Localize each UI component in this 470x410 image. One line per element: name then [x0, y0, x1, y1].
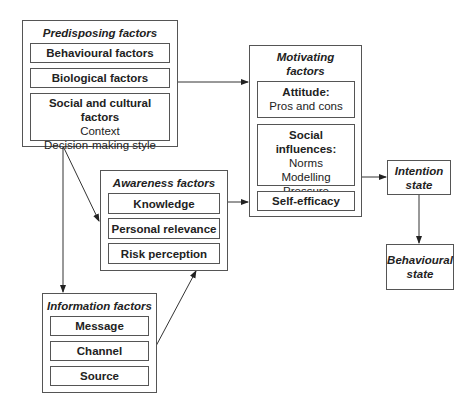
intention-line2: state	[388, 178, 450, 192]
attitude-label: Attitude:	[258, 85, 354, 99]
social-cultural-factors-box: Social and cultural factors Context Deci…	[30, 93, 170, 141]
predisposing-factors-box: Predisposing factors Behavioural factors…	[22, 20, 178, 147]
motivating-title-line2: factors	[250, 64, 361, 78]
behavioural-line1: Behavioural	[387, 253, 453, 267]
source-box: Source	[50, 366, 149, 386]
personal-relevance-label: Personal relevance	[112, 223, 217, 235]
attitude-box: Attitude: Pros and cons	[257, 81, 355, 118]
awareness-factors-box: Awareness factors Knowledge Personal rel…	[100, 170, 228, 271]
knowledge-label: Knowledge	[133, 198, 194, 210]
risk-perception-box: Risk perception	[108, 243, 220, 264]
message-box: Message	[50, 316, 149, 336]
knowledge-box: Knowledge	[108, 193, 220, 214]
pros-and-cons-label: Pros and cons	[258, 99, 354, 113]
arrow-information-to-awareness	[156, 271, 196, 346]
intention-line1: Intention	[388, 164, 450, 178]
personal-relevance-box: Personal relevance	[108, 218, 220, 239]
behavioural-factors-label: Behavioural factors	[46, 47, 153, 59]
social-influences-label: Social influences:	[258, 128, 354, 156]
motivating-title: Motivating factors	[250, 50, 361, 78]
information-title: Information factors	[43, 299, 156, 313]
behavioural-line2: state	[387, 267, 453, 281]
channel-label: Channel	[77, 345, 122, 357]
self-efficacy-label: Self-efficacy	[272, 195, 340, 207]
awareness-title: Awareness factors	[101, 176, 227, 190]
context-label: Context	[31, 124, 169, 138]
biological-factors-box: Biological factors	[30, 68, 170, 88]
norms-label: Norms	[258, 156, 354, 170]
biological-factors-label: Biological factors	[52, 72, 149, 84]
predisposing-title: Predisposing factors	[23, 26, 177, 40]
motivating-factors-box: Motivating factors Attitude: Pros and co…	[249, 45, 362, 217]
modelling-label: Modelling	[258, 170, 354, 184]
decision-making-style-label: Decision-making style	[31, 138, 169, 152]
arrow-predisposing-to-awareness	[63, 146, 99, 221]
source-label: Source	[80, 370, 119, 382]
message-label: Message	[75, 320, 124, 332]
behavioural-factors-box: Behavioural factors	[30, 43, 170, 63]
social-influences-box: Social influences: Norms Modelling Press…	[257, 124, 355, 186]
risk-perception-label: Risk perception	[121, 248, 207, 260]
behavioural-state-box: Behavioural state	[386, 244, 454, 290]
self-efficacy-box: Self-efficacy	[257, 191, 355, 211]
intention-state-box: Intention state	[387, 160, 451, 195]
social-cultural-label: Social and cultural factors	[31, 96, 169, 124]
channel-box: Channel	[50, 341, 149, 361]
motivating-title-line1: Motivating	[250, 50, 361, 64]
information-factors-box: Information factors Message Channel Sour…	[42, 293, 157, 393]
